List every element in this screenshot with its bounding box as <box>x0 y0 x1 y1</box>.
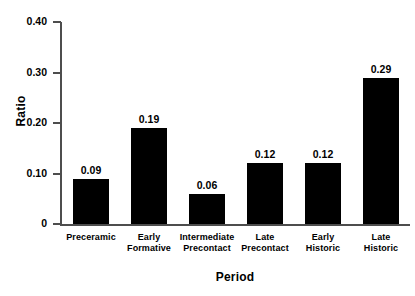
y-axis-tick-label: 0 <box>13 218 47 228</box>
x-axis-tick-label-line: Historic <box>346 243 415 254</box>
y-axis-tick: 0.30 <box>0 72 61 74</box>
bar-slot: 0.29 <box>352 22 410 224</box>
bar-slot: 0.09 <box>62 22 120 224</box>
plot-area: 0.090.190.060.120.120.29 <box>62 22 410 224</box>
bar[interactable] <box>189 194 225 224</box>
bar-value-label: 0.29 <box>371 64 391 75</box>
y-axis-tick-label: 0.20 <box>13 117 47 127</box>
bar-value-label: 0.19 <box>139 114 159 125</box>
bar-value-label: 0.06 <box>197 180 217 191</box>
bar[interactable] <box>73 179 109 224</box>
y-axis-tick-label: 0.30 <box>13 67 47 77</box>
bar[interactable] <box>131 128 167 224</box>
bar-slot: 0.12 <box>294 22 352 224</box>
bar-value-label: 0.09 <box>81 165 101 176</box>
bar-value-label: 0.12 <box>255 149 275 160</box>
bar-value-label: 0.12 <box>313 149 333 160</box>
y-axis-tick: 0.40 <box>0 21 61 23</box>
y-axis-tick-mark <box>53 223 61 225</box>
bar[interactable] <box>363 78 399 224</box>
x-axis-tick-label: LateHistoric <box>346 232 415 253</box>
x-axis-tick-label-line: Late <box>346 232 415 243</box>
y-axis-tick: 0 <box>0 223 61 225</box>
y-axis-tick-label: 0.10 <box>13 168 47 178</box>
bar-slot: 0.06 <box>178 22 236 224</box>
bar[interactable] <box>247 163 283 224</box>
y-axis-tick-label: 0.40 <box>13 16 47 26</box>
x-axis-line <box>60 224 410 226</box>
x-axis-title: Period <box>60 270 410 284</box>
bar-slot: 0.12 <box>236 22 294 224</box>
bar-slot: 0.19 <box>120 22 178 224</box>
y-axis-tick-mark <box>53 173 61 175</box>
y-axis-tick-mark <box>53 122 61 124</box>
y-axis-tick-mark <box>53 72 61 74</box>
y-axis-tick-mark <box>53 21 61 23</box>
bar-chart: Ratio 00.100.200.300.40 0.090.190.060.12… <box>0 0 415 296</box>
bar[interactable] <box>305 163 341 224</box>
y-axis-title: Ratio <box>14 81 28 141</box>
y-axis-tick: 0.10 <box>0 173 61 175</box>
y-axis-tick: 0.20 <box>0 122 61 124</box>
